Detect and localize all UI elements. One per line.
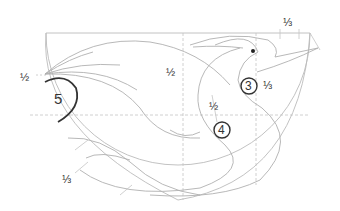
- marker-5: 5: [54, 91, 62, 106]
- beak-end-line: [310, 33, 320, 50]
- inner-loop: [170, 130, 200, 136]
- wing-upper: [68, 138, 200, 195]
- body-curve: [150, 39, 281, 196]
- marker-4: 4: [218, 124, 225, 136]
- tail-feather-1: [45, 41, 230, 85]
- label-center-half: ½: [166, 67, 175, 78]
- label-left-half: ½: [20, 72, 29, 83]
- semicircle-outline: [46, 33, 310, 165]
- tail-feather-2: [45, 52, 93, 74]
- label-bottom-third: ⅓: [62, 174, 71, 185]
- eye-dot: [251, 49, 255, 53]
- wing-tick-1: [75, 140, 88, 150]
- tail-feather-4: [45, 72, 137, 90]
- bird-construction-diagram: [0, 0, 340, 211]
- marker-3: 3: [245, 80, 252, 92]
- label-eye-third: ⅓: [263, 80, 272, 91]
- beak-upper: [275, 48, 318, 57]
- head-lower: [193, 46, 243, 48]
- neck-curve: [80, 48, 240, 191]
- wing-lower: [86, 154, 130, 160]
- wing-tick-3: [120, 185, 132, 195]
- label-top-third: ⅓: [283, 17, 292, 28]
- label-neck-half: ½: [209, 101, 218, 112]
